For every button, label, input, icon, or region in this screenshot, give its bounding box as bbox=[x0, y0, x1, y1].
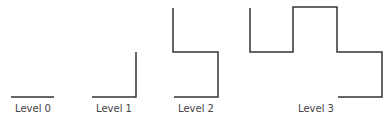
level-1-label: Level 1 bbox=[96, 103, 132, 115]
level-0-label: Level 0 bbox=[15, 103, 51, 115]
level-2-label: Level 2 bbox=[178, 103, 214, 115]
level-3-curve bbox=[250, 7, 382, 97]
level-2-curve bbox=[173, 8, 218, 97]
level-1-curve bbox=[92, 52, 136, 97]
level-3-label: Level 3 bbox=[298, 103, 334, 115]
